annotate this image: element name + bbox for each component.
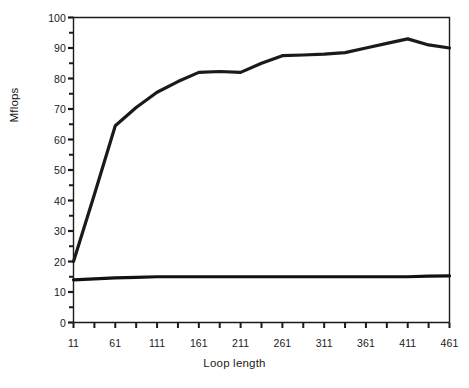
plot-area <box>0 0 469 388</box>
chart-container: Mflops Loop length 100908070605040302010… <box>0 0 469 388</box>
series-line-lower-curve <box>74 276 450 280</box>
data-series-group <box>74 39 450 280</box>
series-line-upper-curve <box>74 39 450 262</box>
